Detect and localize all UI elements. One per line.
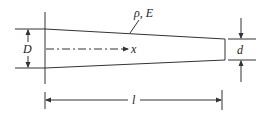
diagram-canvas: ρ, E x D d l xyxy=(0,0,268,117)
bar-bottom-edge xyxy=(45,60,225,68)
large-diameter-label: D xyxy=(22,42,32,56)
small-diameter-label: d xyxy=(237,43,244,57)
bar-top-edge xyxy=(45,29,225,39)
axis-label: x xyxy=(130,42,137,56)
material-label: ρ, E xyxy=(133,6,154,20)
tapered-bar-diagram: ρ, E x D d l xyxy=(0,0,268,117)
length-label: l xyxy=(132,93,136,107)
material-leader-line xyxy=(130,20,139,33)
